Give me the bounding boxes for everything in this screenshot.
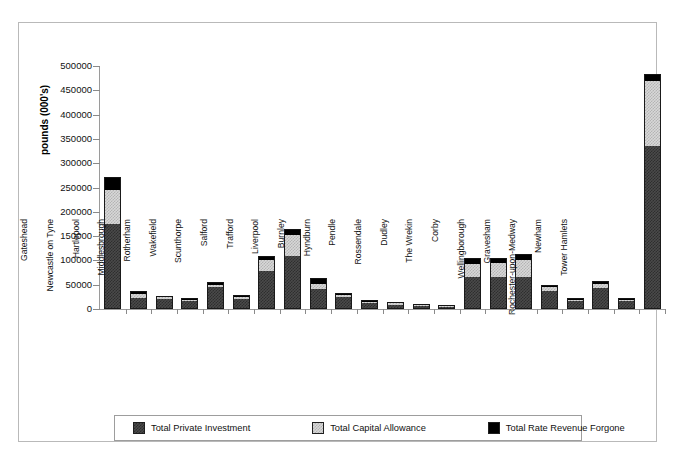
y-axis-tick	[93, 66, 100, 67]
rate-swatch-icon	[488, 422, 500, 434]
y-axis-tick	[93, 285, 100, 286]
x-axis-label: Newham	[534, 219, 544, 315]
bar-segment	[644, 146, 661, 309]
x-axis-tick	[639, 309, 640, 314]
x-axis-label: Dudley	[380, 219, 390, 315]
x-axis-tick	[177, 309, 178, 314]
y-axis-tick-label: 200000	[22, 207, 92, 217]
chart-frame: pounds (000's) 5000004500004000003500003…	[18, 22, 657, 442]
y-axis-tick	[93, 115, 100, 116]
x-axis-tick	[126, 309, 127, 314]
x-axis-label: Wellingborough	[457, 219, 467, 315]
x-axis-tick	[588, 309, 589, 314]
x-axis-tick	[280, 309, 281, 314]
legend-label: Total Capital Allowance	[330, 423, 426, 433]
x-axis-label: Liverpool	[251, 219, 261, 315]
x-axis-tick	[460, 309, 461, 314]
y-axis-tick-label: 250000	[22, 183, 92, 193]
bar-middlesbrough[interactable]	[181, 298, 198, 309]
x-axis-tick	[305, 309, 306, 314]
x-axis-tick	[562, 309, 563, 314]
y-axis-tick-label: 450000	[22, 85, 92, 95]
x-axis-label: Scunthorpe	[174, 219, 184, 315]
x-axis-tick	[485, 309, 486, 314]
x-axis-label: The Wrekin	[405, 219, 415, 315]
y-axis-tick	[93, 163, 100, 164]
bar-liverpool[interactable]	[335, 293, 352, 309]
y-axis-tick	[93, 236, 100, 237]
x-axis-tick	[511, 309, 512, 314]
x-axis-label: Hartlepool	[72, 219, 82, 315]
x-axis-tick	[537, 309, 538, 314]
y-axis-tick	[93, 139, 100, 140]
y-axis-tick	[93, 188, 100, 189]
x-axis-label: Newcastle on Tyne	[46, 219, 56, 315]
bar-segment	[258, 260, 275, 271]
x-axis-tick	[665, 309, 666, 314]
bar-segment	[335, 297, 352, 309]
x-axis-label: Middlesbrough	[97, 219, 107, 315]
x-axis-label: Hyndburn	[303, 219, 313, 315]
x-axis-label: Gateshead	[20, 219, 30, 315]
y-axis-tick-label: 350000	[22, 134, 92, 144]
bar-segment	[104, 224, 121, 309]
x-axis-label: Salford	[200, 219, 210, 315]
bar-segment	[258, 271, 275, 309]
x-axis-tick	[203, 309, 204, 314]
chart-page: pounds (000's) 5000004500004000003500003…	[0, 0, 680, 465]
x-axis-label: Burnley	[277, 219, 287, 315]
chart-legend: Total Private Investment Total Capital A…	[114, 415, 582, 441]
x-axis-label: Pendle	[328, 219, 338, 315]
x-axis-tick	[151, 309, 152, 314]
bar-pendle[interactable]	[413, 304, 430, 309]
bar-burnley[interactable]	[361, 300, 378, 309]
bar-scunthorpe[interactable]	[258, 256, 275, 309]
y-axis-tick	[93, 260, 100, 261]
x-axis-tick	[254, 309, 255, 314]
x-axis-tick	[614, 309, 615, 314]
x-axis-tick	[357, 309, 358, 314]
bar-tower-hamlets[interactable]	[644, 74, 661, 309]
bar-segment	[181, 301, 198, 309]
legend-item-rate-revenue-forgone: Total Rate Revenue Forgone	[488, 422, 625, 434]
y-axis-tick	[93, 309, 100, 310]
y-axis-tick	[93, 212, 100, 213]
x-axis-label: Tower Hamlets	[560, 219, 570, 315]
x-axis-label: Corby	[431, 219, 441, 315]
bar-segment	[284, 235, 301, 256]
x-axis-tick	[434, 309, 435, 314]
invest-swatch-icon	[133, 422, 145, 434]
bar-newham[interactable]	[618, 298, 635, 309]
y-axis-tick-label: 500000	[22, 61, 92, 71]
x-axis-label: Rotherham	[123, 219, 133, 315]
y-axis-tick-label: 300000	[22, 158, 92, 168]
x-axis-labels: GatesheadNewcastle on TyneHartlepoolMidd…	[100, 315, 666, 415]
bar-segment	[438, 307, 455, 309]
bar-segment	[515, 260, 532, 277]
bar-rotherham[interactable]	[207, 282, 224, 309]
y-axis-tick-label: 400000	[22, 110, 92, 120]
bar-segment	[104, 190, 121, 224]
bar-segment	[618, 301, 635, 309]
bar-corby[interactable]	[515, 254, 532, 309]
legend-item-capital-allowance: Total Capital Allowance	[312, 422, 426, 434]
bar-segment	[515, 277, 532, 309]
x-axis-label: Wakefield	[149, 219, 159, 315]
bar-segment	[207, 287, 224, 309]
legend-label: Total Rate Revenue Forgone	[506, 423, 625, 433]
x-axis-label: Gravesham	[483, 219, 493, 315]
x-axis-tick	[331, 309, 332, 314]
bar-segment	[361, 303, 378, 309]
bar-rochester-upon-medway[interactable]	[592, 281, 609, 309]
bar-rossendale[interactable]	[438, 305, 455, 309]
bar-salford[interactable]	[284, 229, 301, 309]
x-axis-label: Rochester-upon-Medway	[508, 219, 518, 315]
y-axis-tick	[93, 90, 100, 91]
bar-segment	[592, 288, 609, 309]
legend-label: Total Private Investment	[151, 423, 250, 433]
bar-segment	[644, 74, 661, 81]
bar-gateshead[interactable]	[104, 177, 121, 309]
x-axis-tick	[383, 309, 384, 314]
bar-segment	[644, 81, 661, 146]
bar-segment	[104, 177, 121, 190]
